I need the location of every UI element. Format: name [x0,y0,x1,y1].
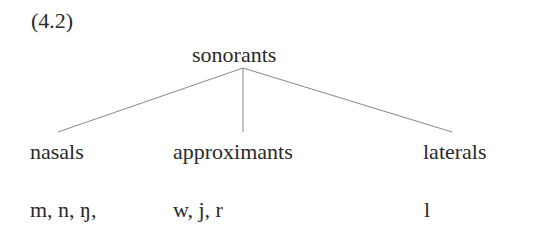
branch-left [58,68,243,132]
branch-right [243,68,452,132]
node-approximants: approximants [173,141,293,163]
members-laterals: l [424,199,430,221]
node-nasals: nasals [30,141,84,163]
members-nasals: m, n, ŋ, [30,199,97,221]
node-laterals: laterals [423,141,487,163]
members-approximants: w, j, r [173,199,223,221]
